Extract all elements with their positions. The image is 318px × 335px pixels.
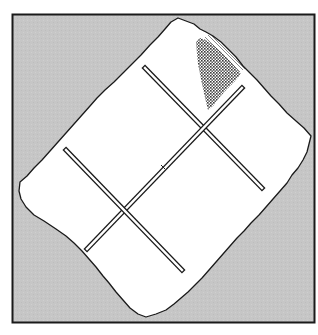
torn-paper-diagram <box>0 0 318 335</box>
